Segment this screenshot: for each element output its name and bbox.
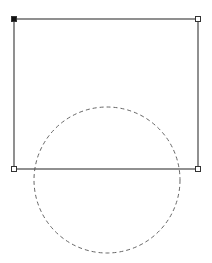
resize-handle-top-left[interactable] [12,17,17,22]
canvas-background [0,0,212,263]
resize-handle-top-right[interactable] [196,17,201,22]
resize-handle-bottom-right[interactable] [196,167,201,172]
drawing-canvas[interactable] [0,0,212,263]
resize-handle-bottom-left[interactable] [12,167,17,172]
